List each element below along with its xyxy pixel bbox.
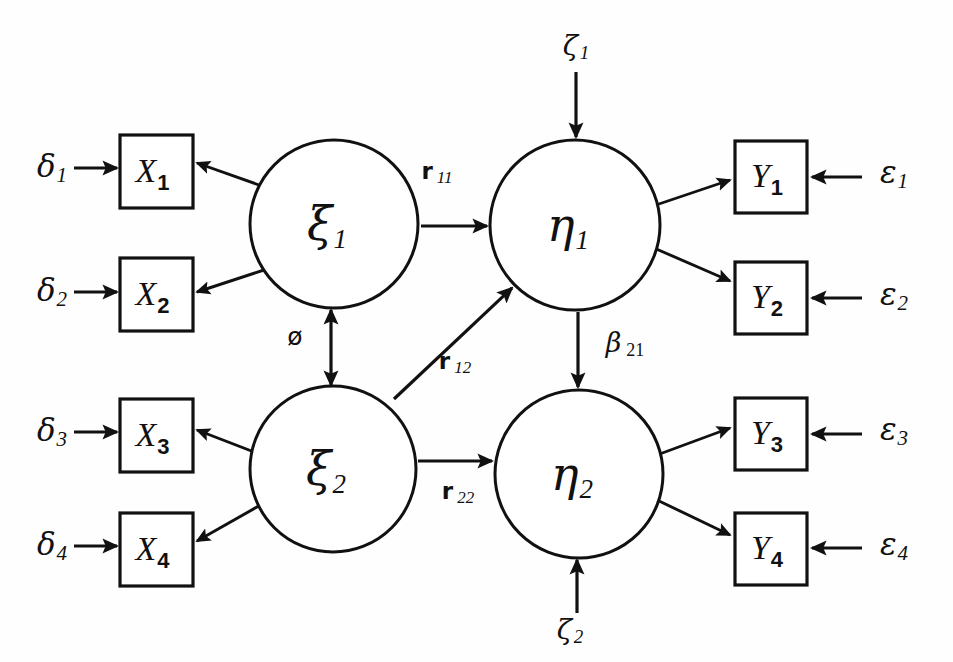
zeta-z1-label: ζ1 [563, 29, 590, 64]
delta-label-group: δ1δ2δ3δ4 [37, 148, 68, 565]
epsilon-e2-label: ε2 [880, 276, 909, 315]
epsilon-e1-label: ε1 [880, 154, 908, 193]
arrow-a-eta2-y4 [657, 500, 730, 535]
sem-diagram-canvas: X1X2X3X4 Y1Y2Y3Y4 ξ1ξ2η1η2 δ1δ2δ3δ4 ε1ε2… [0, 0, 953, 662]
arrow-a-eta1-y1 [653, 180, 730, 206]
observed-box-y4[interactable]: Y4 [735, 513, 807, 585]
latent-circle-eta2[interactable]: η2 [495, 390, 663, 558]
delta-to-x-arrow-group [74, 168, 117, 546]
epsilon-e4-label: ε4 [880, 526, 909, 565]
path-label-beta21-label: β21 [605, 327, 645, 361]
arrow-a-r12 [394, 288, 512, 399]
path-label-r22-label: r22 [442, 478, 475, 507]
arrow-a-eta2-y3 [657, 428, 730, 455]
arrow-a-xi1-x1 [197, 163, 262, 186]
path-label-phi: ø [287, 322, 302, 351]
epsilon-e3-label: ε3 [880, 411, 908, 450]
epsilon-to-y-arrow-group [812, 177, 862, 548]
path-label-r12-label: r12 [439, 348, 472, 377]
observed-box-y1[interactable]: Y1 [735, 141, 807, 213]
observed-box-x2[interactable]: X2 [120, 258, 193, 331]
epsilon-label-group: ε1ε2ε3ε4 [880, 154, 909, 565]
observed-box-y2[interactable]: Y2 [735, 262, 807, 334]
arrow-a-eta1-y2 [654, 248, 730, 281]
path-label-r11-label: r11 [421, 158, 452, 187]
observed-x-box-group: X1X2X3X4 [120, 135, 193, 586]
observed-box-y3[interactable]: Y3 [735, 398, 807, 470]
delta-d4-label: δ4 [37, 526, 68, 565]
sem-path-diagram: X1X2X3X4 Y1Y2Y3Y4 ξ1ξ2η1η2 δ1δ2δ3δ4 ε1ε2… [0, 0, 953, 662]
observed-box-x4[interactable]: X4 [120, 513, 193, 586]
observed-box-x1[interactable]: X1 [120, 135, 193, 208]
eta-to-y-loading-arrow-group [653, 180, 730, 535]
zeta-z2-label: ζ2 [557, 613, 584, 648]
observed-box-x3[interactable]: X3 [120, 399, 193, 472]
latent-circle-eta1[interactable]: η1 [490, 140, 660, 310]
observed-y-box-group: Y1Y2Y3Y4 [735, 141, 807, 585]
arrow-a-xi2-x4 [197, 503, 264, 541]
delta-d2-label: δ2 [37, 272, 68, 311]
arrow-a-xi1-x2 [197, 270, 264, 292]
delta-d1-label: δ1 [37, 148, 67, 187]
latent-circle-xi1[interactable]: ξ1 [250, 140, 418, 308]
latent-circle-xi2[interactable]: ξ2 [250, 386, 416, 552]
delta-d3-label: δ3 [37, 412, 67, 451]
